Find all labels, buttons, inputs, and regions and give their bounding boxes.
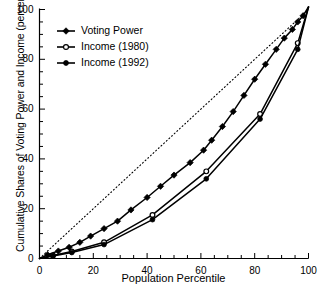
y-tick-label: 100 xyxy=(8,4,34,15)
x-tick-label: 80 xyxy=(240,265,270,276)
legend-label-voting-power: Voting Power xyxy=(81,24,143,36)
line-of-equality xyxy=(40,10,309,259)
x-tick-label: 20 xyxy=(78,265,108,276)
legend-markers xyxy=(57,28,75,66)
y-axis-title: Cumulative Shares of Voting Power and In… xyxy=(14,0,26,252)
legend-label-income-1980: Income (1980) xyxy=(81,40,149,52)
x-tick-label: 40 xyxy=(132,265,162,276)
chart-figure: Cumulative Shares of Voting Power and In… xyxy=(0,0,322,291)
y-tick-label: 20 xyxy=(8,203,34,214)
y-tick-label: 40 xyxy=(8,153,34,164)
x-tick-label: 0 xyxy=(25,265,55,276)
x-tick-label: 100 xyxy=(294,265,322,276)
y-tick-label: 0 xyxy=(8,253,34,264)
y-tick-label: 80 xyxy=(8,53,34,64)
y-tick-label: 60 xyxy=(8,103,34,114)
chart-canvas xyxy=(0,0,322,291)
legend-label-income-1992: Income (1992) xyxy=(81,56,149,68)
x-tick-label: 60 xyxy=(186,265,216,276)
